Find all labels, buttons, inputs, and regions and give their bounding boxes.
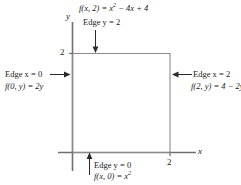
top-edge-formula-suffix: − 4x + 4 <box>116 3 148 13</box>
top-edge-formula-prefix: f(x, 2) = x <box>79 3 113 13</box>
left-arrow <box>172 72 192 78</box>
bottom-edge-formula-prefix: f(x, 0) = x <box>94 171 128 181</box>
left-edge-formula: f(0, y) = 2y <box>5 81 43 91</box>
right-arrow <box>50 72 71 78</box>
down-arrow <box>93 30 99 53</box>
x-axis-tick-label-2: 2 <box>167 158 172 167</box>
bottom-edge-formula: f(x, 0) = x2 <box>94 171 131 181</box>
right-edge-label: Edge x = 2 <box>193 69 230 79</box>
left-edge-label: Edge x = 0 <box>5 69 42 79</box>
top-edge-label: Edge y = 2 <box>83 17 120 27</box>
y-axis-tick-label-2: 2 <box>60 48 65 57</box>
up-arrow <box>87 153 93 176</box>
bottom-edge-formula-exponent: 2 <box>128 170 131 176</box>
x-axis-label: x <box>198 147 202 156</box>
y-axis-label: y <box>66 12 70 21</box>
diagram-graphics <box>0 0 241 185</box>
bottom-edge-label: Edge y = 0 <box>94 160 131 170</box>
top-edge-formula: f(x, 2) = x2 − 4x + 4 <box>79 3 148 13</box>
edge-functions-diagram: y x 2 2 f(x, 2) = x2 − 4x + 4 Edge y = 2… <box>0 0 241 185</box>
right-edge-formula: f(2, y) = 4 − 2y <box>191 81 241 91</box>
